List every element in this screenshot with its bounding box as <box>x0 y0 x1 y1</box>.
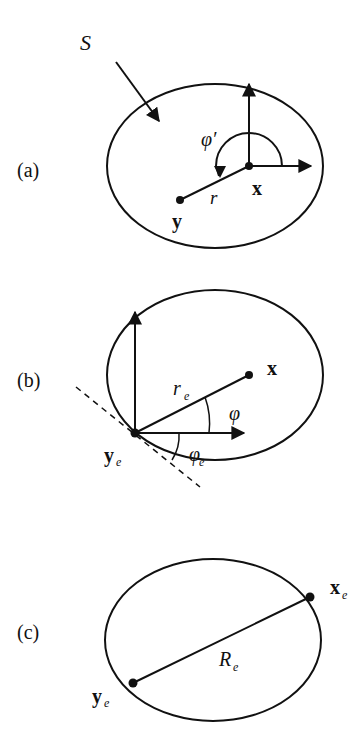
surface-label: S <box>80 30 91 55</box>
panel-a: (a) S φ′ r x y <box>17 30 323 248</box>
chord-line <box>133 597 310 683</box>
distance-subscript: e <box>184 389 190 403</box>
edge-point-label: y <box>104 444 114 467</box>
field-point <box>245 371 253 379</box>
tangent-angle-subscript: e <box>199 455 205 469</box>
surface-ellipse <box>107 290 323 460</box>
distance-label: R <box>218 648 231 670</box>
ye-point-subscript: e <box>104 696 110 710</box>
distance-label: r <box>173 377 181 399</box>
figure-canvas: (a) S φ′ r x y (b) x r e φ φ e y e <box>0 0 363 741</box>
xe-point <box>306 593 315 602</box>
panel-c-label: (c) <box>17 621 39 644</box>
angle-arc <box>205 397 210 433</box>
distance-label: r <box>210 187 218 208</box>
field-point <box>245 162 253 170</box>
tangent-line <box>76 387 200 487</box>
source-point <box>176 196 184 204</box>
angle-label: φ′ <box>201 128 217 151</box>
edge-point-subscript: e <box>116 455 122 469</box>
panel-a-label: (a) <box>17 159 39 182</box>
surface-pointer-arrow-icon <box>116 62 159 121</box>
xe-point-label: x <box>330 576 340 598</box>
edge-point <box>131 429 140 438</box>
ye-point <box>129 679 138 688</box>
distance-subscript: e <box>233 660 239 674</box>
surface-ellipse <box>105 559 321 721</box>
tangent-angle-arc <box>172 433 179 460</box>
panel-b: (b) x r e φ φ e y e <box>17 290 323 487</box>
field-point-label: x <box>252 177 262 199</box>
source-point-label: y <box>172 210 182 233</box>
panel-c: (c) x e y e R e <box>17 559 348 721</box>
field-point-label: x <box>267 357 277 379</box>
angle-label: φ <box>229 402 240 425</box>
xe-point-subscript: e <box>342 588 348 602</box>
angle-arc-arrowhead-icon <box>214 166 226 178</box>
panel-b-label: (b) <box>17 369 40 392</box>
ye-point-label: y <box>92 685 102 708</box>
